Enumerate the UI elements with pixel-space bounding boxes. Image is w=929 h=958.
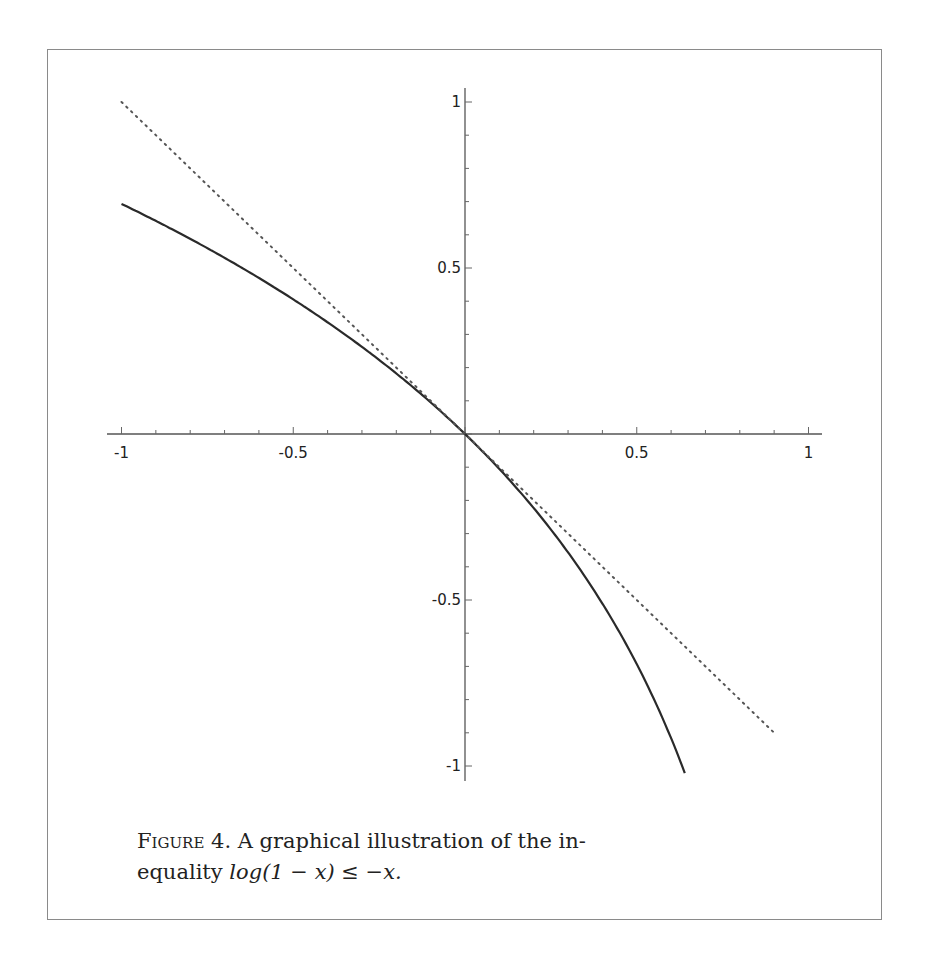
svg-text:-0.5: -0.5 <box>279 444 308 462</box>
svg-text:-1: -1 <box>114 444 129 462</box>
figure-caption: Figure 4. A graphical illustration of th… <box>137 826 677 888</box>
svg-text:0.5: 0.5 <box>625 444 649 462</box>
caption-text: A graphical illustration of the in- <box>238 829 586 853</box>
figure-label: Figure 4. <box>137 829 231 853</box>
plot-area: -1-0.50.5110.5-0.5-1 <box>0 0 929 958</box>
svg-text:0.5: 0.5 <box>437 259 461 277</box>
log-curve <box>122 204 685 773</box>
svg-text:1: 1 <box>804 444 814 462</box>
caption-math: log(1 − x) ≤ −x. <box>229 860 401 884</box>
svg-text:1: 1 <box>451 93 461 111</box>
svg-text:-0.5: -0.5 <box>432 591 461 609</box>
caption-line2: equality <box>137 860 229 884</box>
svg-text:-1: -1 <box>446 757 461 775</box>
